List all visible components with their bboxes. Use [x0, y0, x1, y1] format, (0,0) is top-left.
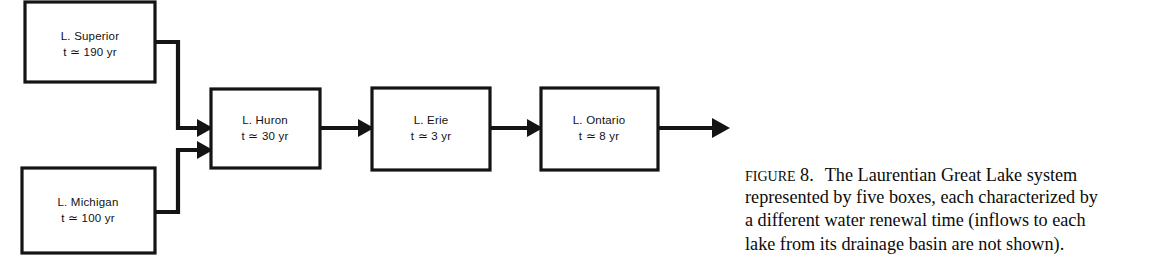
lake-box-huron-time: t ≃ 30 yr — [242, 130, 289, 142]
edge-erie-to-ontario — [490, 119, 543, 137]
lake-box-ontario[interactable]: L. Ontario t ≃ 8 yr — [541, 88, 658, 170]
edge-superior-to-huron-path — [155, 42, 201, 128]
lake-box-ontario-rect — [541, 88, 658, 170]
lake-box-superior-time: t ≃ 190 yr — [63, 46, 117, 58]
lake-box-michigan-name: L. Michigan — [57, 196, 118, 208]
caption-line-3: a different water renewal time (inflows … — [745, 209, 1173, 232]
lake-box-michigan-time: t ≃ 100 yr — [61, 212, 115, 224]
lake-box-superior-rect — [25, 2, 155, 82]
caption-text-1: The Laurentian Great Lake system — [825, 165, 1078, 185]
lake-box-erie[interactable]: L. Erie t ≃ 3 yr — [372, 88, 490, 170]
edge-ontario-outflow-arrowhead — [712, 118, 730, 138]
edge-ontario-outflow — [658, 118, 730, 138]
lake-box-erie-rect — [372, 88, 490, 170]
caption-line-1: Figure 8.The Laurentian Great Lake syste… — [745, 163, 1173, 186]
lake-box-superior[interactable]: L. Superior t ≃ 190 yr — [25, 2, 155, 82]
edge-michigan-to-huron — [155, 141, 213, 212]
edge-huron-to-erie — [320, 119, 374, 137]
lake-box-ontario-time: t ≃ 8 yr — [579, 130, 619, 142]
lake-box-erie-name: L. Erie — [414, 114, 449, 126]
caption-line-2: represented by five boxes, each characte… — [745, 186, 1173, 209]
caption-line-4: lake from its drainage basin are not sho… — [745, 233, 1173, 256]
lake-box-huron[interactable]: L. Huron t ≃ 30 yr — [211, 89, 320, 168]
lake-box-erie-time: t ≃ 3 yr — [411, 130, 451, 142]
lake-box-michigan-rect — [22, 168, 155, 253]
edge-michigan-to-huron-path — [155, 150, 201, 212]
lake-box-huron-name: L. Huron — [242, 114, 288, 126]
figure-page: L. Superior t ≃ 190 yr L. Michigan t ≃ 1… — [0, 0, 1173, 278]
lake-box-michigan[interactable]: L. Michigan t ≃ 100 yr — [22, 168, 155, 253]
figure-label-word: Figure — [745, 164, 796, 185]
lake-box-ontario-name: L. Ontario — [573, 114, 626, 126]
figure-number: 8. — [800, 165, 814, 185]
edge-superior-to-huron — [155, 42, 213, 137]
figure-caption: Figure 8.The Laurentian Great Lake syste… — [745, 163, 1173, 256]
lake-box-huron-rect — [211, 89, 320, 168]
lake-box-superior-name: L. Superior — [61, 30, 119, 42]
